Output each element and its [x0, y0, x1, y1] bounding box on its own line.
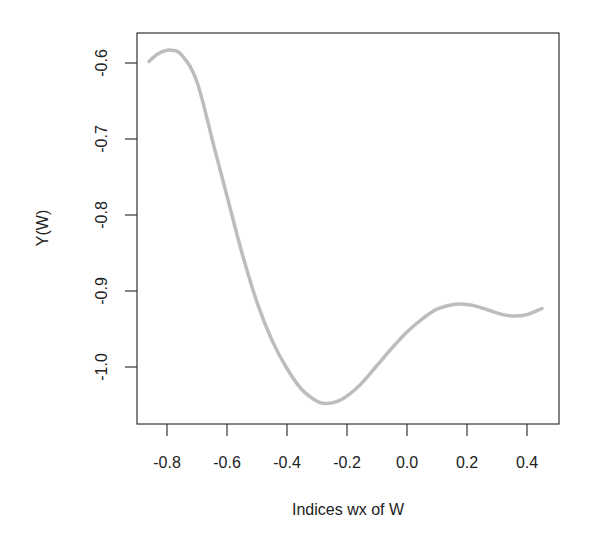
x-tick-label: 0.4	[516, 454, 538, 471]
x-axis-title: Indices wx of W	[292, 501, 405, 518]
x-axis: -0.8-0.6-0.4-0.20.00.20.4	[153, 424, 538, 471]
y-axis-title: Y(W)	[34, 210, 51, 246]
y-tick-label: -0.7	[93, 125, 110, 153]
x-tick-label: 0.0	[396, 454, 418, 471]
y-tick-label: -0.9	[93, 277, 110, 305]
x-tick-label: -0.4	[273, 454, 301, 471]
x-tick-label: -0.6	[213, 454, 241, 471]
line-chart: -0.8-0.6-0.4-0.20.00.20.4 -0.6-0.7-0.8-0…	[0, 0, 589, 543]
y-tick-label: -1.0	[93, 353, 110, 381]
x-tick-label: -0.8	[153, 454, 181, 471]
data-line	[149, 50, 542, 403]
x-tick-label: 0.2	[456, 454, 478, 471]
y-axis: -0.6-0.7-0.8-0.9-1.0	[93, 49, 137, 381]
y-tick-label: -0.6	[93, 49, 110, 77]
y-tick-label: -0.8	[93, 201, 110, 229]
x-tick-label: -0.2	[333, 454, 361, 471]
